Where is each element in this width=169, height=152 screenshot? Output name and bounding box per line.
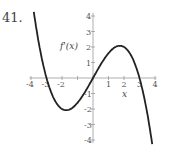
svg-text:-2: -2	[84, 105, 92, 114]
svg-text:-2: -2	[57, 80, 65, 89]
x-axis-label: x	[122, 89, 127, 99]
svg-text:4: 4	[86, 12, 91, 21]
svg-text:1: 1	[86, 59, 91, 68]
svg-text:-3: -3	[84, 121, 92, 130]
svg-text:2: 2	[86, 43, 91, 52]
svg-text:-4: -4	[84, 136, 92, 145]
svg-text:2: 2	[122, 80, 127, 89]
svg-text:1: 1	[106, 80, 111, 89]
derivative-graph: -4-3-21234-4-3-2-11234 f'(x) x	[0, 0, 169, 152]
y-axis-label: f'(x)	[59, 41, 78, 51]
svg-text:-4: -4	[26, 80, 34, 89]
svg-text:4: 4	[153, 80, 158, 89]
svg-text:3: 3	[86, 28, 91, 37]
